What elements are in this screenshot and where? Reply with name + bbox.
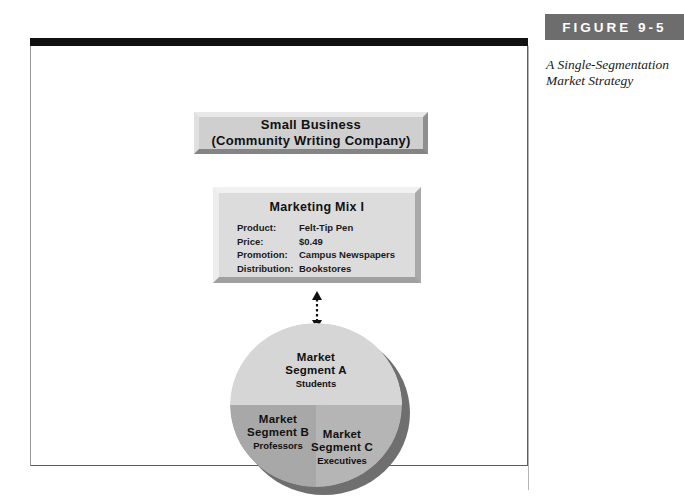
small-business-title: Small Business xyxy=(261,117,361,133)
segment-a-subtitle: Students xyxy=(262,377,370,390)
marketing-mix-row: Promotion: Campus Newspapers xyxy=(237,248,415,262)
segment-a-title-line2: Segment A xyxy=(262,364,370,377)
pie-label-segment-a: Market Segment A Students xyxy=(262,351,370,390)
marketing-mix-row: Distribution: Bookstores xyxy=(237,262,415,276)
mix-label-promotion: Promotion: xyxy=(237,248,299,262)
small-business-subtitle: (Community Writing Company) xyxy=(211,133,410,149)
mix-label-product: Product: xyxy=(237,221,299,235)
segment-c-title-line1: Market xyxy=(292,428,392,441)
top-rule xyxy=(30,38,528,46)
mix-label-distribution: Distribution: xyxy=(237,262,299,276)
segment-b-title-line1: Market xyxy=(228,413,328,426)
header-divider xyxy=(528,46,529,490)
segment-c-subtitle: Executives xyxy=(292,454,392,467)
segment-a-title-line1: Market xyxy=(262,351,370,364)
figure-number-label: FIGURE 9-5 xyxy=(562,20,666,35)
segment-c-title-line2: Segment C xyxy=(292,441,392,454)
mix-label-price: Price: xyxy=(237,235,299,249)
pie-label-segment-c: Market Segment C Executives xyxy=(292,428,392,467)
figure-caption: A Single-Segmentation Market Strategy xyxy=(546,57,678,88)
mix-value-distribution: Bookstores xyxy=(299,262,351,276)
marketing-mix-row: Price: $0.49 xyxy=(237,235,415,249)
mix-value-product: Felt-Tip Pen xyxy=(299,221,353,235)
diagram-frame: Small Business (Community Writing Compan… xyxy=(30,46,528,466)
mix-value-price: $0.49 xyxy=(299,235,323,249)
market-segment-pie-chart: Market Segment A Students Market Segment… xyxy=(230,323,416,499)
figure-header-box: FIGURE 9-5 xyxy=(545,14,684,40)
marketing-mix-rows: Product: Felt-Tip Pen Price: $0.49 Promo… xyxy=(237,221,415,275)
mix-value-promotion: Campus Newspapers xyxy=(299,248,395,262)
small-business-box: Small Business (Community Writing Compan… xyxy=(194,112,428,154)
marketing-mix-row: Product: Felt-Tip Pen xyxy=(237,221,415,235)
marketing-mix-box: Marketing Mix I Product: Felt-Tip Pen Pr… xyxy=(213,187,421,283)
marketing-mix-title: Marketing Mix I xyxy=(219,200,415,214)
